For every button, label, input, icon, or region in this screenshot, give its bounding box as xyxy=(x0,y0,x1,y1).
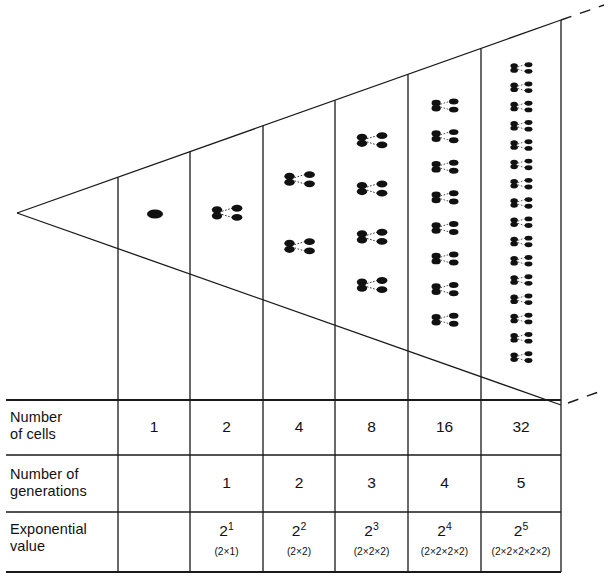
cell-cluster-c4-3-link-1 xyxy=(367,232,377,235)
cell-cluster-c6-14-link-2 xyxy=(518,320,525,322)
cell-cluster-c5-1 xyxy=(441,99,459,113)
dashed-upper-continuation xyxy=(561,5,604,20)
cell-cluster-c4-1-link-2 xyxy=(367,142,377,145)
cell-cluster-c5-3-link-2 xyxy=(441,168,450,171)
dividing-cell-bridge xyxy=(513,104,516,108)
cell-cluster-c6-4 xyxy=(518,120,533,132)
cell-cluster-c5-2-daughter-1 xyxy=(449,129,459,135)
cell-cluster-c6-3-link-2 xyxy=(518,108,525,110)
cell-cluster-c6-14 xyxy=(518,313,533,325)
cell-cluster-c5-8-parent xyxy=(432,314,441,326)
dividing-cell-bridge xyxy=(360,234,364,240)
cell-cluster-c6-15-link-2 xyxy=(518,339,525,341)
dividing-cell-bridge xyxy=(434,317,438,322)
row-label-exponential-value: Exponential value xyxy=(10,521,87,555)
cell-cluster-c6-5-daughter-1 xyxy=(525,139,533,144)
cell-cluster-c4-1-link-1 xyxy=(367,136,377,139)
dividing-cell-bridge xyxy=(513,201,516,205)
cell-cluster-c6-7-daughter-1 xyxy=(525,178,533,183)
exponential-value-base-col4: 23 xyxy=(335,522,408,540)
cell-cluster-c4-4-daughter-2 xyxy=(377,286,388,293)
row-label-line1: Exponential xyxy=(10,521,87,538)
cell-cluster-c6-2-parent xyxy=(510,83,517,93)
dividing-cell-bridge xyxy=(513,336,516,340)
dividing-cell-bridge xyxy=(513,162,516,166)
cell-cluster-c4-2-link-1 xyxy=(367,184,377,187)
dividing-cell-bridge xyxy=(434,286,438,291)
cell-cluster-c6-2-link-1 xyxy=(518,84,525,86)
cell-cluster-c5-3-daughter-2 xyxy=(449,168,459,174)
cell-cluster-c6-11-parent xyxy=(510,256,517,266)
cell-cluster-c5-8-link-1 xyxy=(441,316,450,319)
cell-cluster-c4-1-parent xyxy=(357,134,367,147)
cell-cluster-c6-12-link-2 xyxy=(518,281,525,283)
cell-cluster-c6-12-daughter-1 xyxy=(525,274,533,279)
cell-cluster-c3-1-daughter-1 xyxy=(304,171,315,178)
cell-cluster-c3-1-link-2 xyxy=(295,181,305,184)
cell-cluster-c6-16-daughter-1 xyxy=(525,351,533,356)
cell-cluster-c5-4-parent xyxy=(432,192,441,204)
cell-cluster-c4-3 xyxy=(367,229,387,245)
cell-cluster-c6-13-daughter-1 xyxy=(525,294,533,299)
dividing-cell-bridge xyxy=(288,176,292,182)
cell-cluster-c6-13 xyxy=(518,294,533,306)
exponential-expansion-col2: (2×1) xyxy=(186,546,267,557)
exponential-value-base-col3: 22 xyxy=(263,522,335,540)
cell-cluster-c6-2-link-2 xyxy=(518,88,525,90)
exponential-expansion-col6: (2×2×2×2×2) xyxy=(477,546,565,557)
dividing-cell-bridge xyxy=(513,297,516,301)
cell-cluster-c6-14-daughter-1 xyxy=(525,313,533,318)
cell-cluster-c5-5-link-1 xyxy=(441,224,450,227)
row-label-line2: value xyxy=(10,538,87,555)
cell-cluster-c5-5-parent xyxy=(432,222,441,234)
cell-cluster-c6-14-link-1 xyxy=(518,315,525,317)
cell-cluster-c5-4-daughter-1 xyxy=(449,190,459,196)
exponential-exponent: 4 xyxy=(446,520,452,532)
row-label-line1: Number xyxy=(10,409,62,426)
cell-cluster-c6-9-link-2 xyxy=(518,223,525,225)
row-label-line2: generations xyxy=(10,483,87,500)
cell-cluster-c3-1-parent xyxy=(284,173,294,186)
cell-cluster-c5-7-parent xyxy=(432,283,441,295)
cell-cluster-c4-1-daughter-1 xyxy=(377,132,388,139)
cell-cluster-c6-16-parent xyxy=(510,352,517,362)
number-of-generations-value-col6: 5 xyxy=(481,474,561,492)
dividing-cell-bridge xyxy=(513,278,516,282)
cell-cluster-c5-6-daughter-2 xyxy=(449,260,459,266)
cell-cluster-c6-9 xyxy=(518,216,533,228)
exponential-value-base-col6: 25 xyxy=(481,522,561,540)
cell-cluster-c6-6-link-2 xyxy=(518,166,525,168)
dividing-cell-bridge xyxy=(513,316,516,320)
cell-cluster-c2-1-link-2 xyxy=(222,214,232,217)
exponential-base: 2 xyxy=(219,522,228,539)
dividing-cell-bridge xyxy=(513,124,516,128)
cell-cluster-c3-1 xyxy=(295,171,315,187)
cell-cluster-c6-6-link-1 xyxy=(518,161,525,163)
cell-cluster-c6-5-daughter-2 xyxy=(525,146,533,151)
exponential-value-base-col2: 21 xyxy=(190,522,263,540)
cell-cluster-c4-3-daughter-2 xyxy=(377,238,388,245)
cell-cluster-c6-1-link-2 xyxy=(518,69,525,71)
dashed-lower-continuation xyxy=(568,390,604,403)
cell-cluster-c2-1-daughter-1 xyxy=(232,205,243,212)
cell-cluster-c5-3-parent xyxy=(432,161,441,173)
cell-cluster-c4-2-parent xyxy=(357,182,367,195)
cell-cluster-c6-4-link-2 xyxy=(518,127,525,129)
dividing-cell-bridge xyxy=(434,225,438,230)
cell-cluster-c5-5-link-2 xyxy=(441,229,450,232)
cell-cluster-c6-9-parent xyxy=(510,217,517,227)
number-of-cells-value-col1: 1 xyxy=(118,418,190,436)
dividing-cell-bridge xyxy=(434,164,438,169)
cell-cluster-c5-5-daughter-2 xyxy=(449,229,459,235)
cell-cluster-c5-1-daughter-1 xyxy=(449,99,459,105)
cell-cluster-c5-5-daughter-1 xyxy=(449,221,459,227)
cell-cluster-c6-15-link-1 xyxy=(518,335,525,337)
cell-cluster-c6-12 xyxy=(518,274,533,286)
cell-cluster-c6-3-link-1 xyxy=(518,103,525,105)
cell-cluster-c6-12-daughter-2 xyxy=(525,281,533,286)
cell-cluster-c5-4-link-1 xyxy=(441,193,450,196)
dividing-cell-bridge xyxy=(215,210,219,216)
cell-cluster-c5-7-daughter-1 xyxy=(449,282,459,288)
cell-cluster-c2-1 xyxy=(222,205,242,221)
cell-cluster-c5-6-link-1 xyxy=(441,254,450,257)
